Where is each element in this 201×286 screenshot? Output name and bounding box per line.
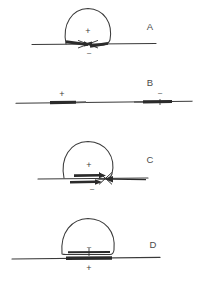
figure-svg: + – A + – B + [0, 0, 201, 286]
panel-c-letter: C [146, 154, 153, 165]
panel-b-letter: B [147, 77, 154, 88]
panel-a-sign-plus: + [85, 26, 90, 36]
figure-background [0, 0, 201, 286]
panel-d-letter: D [149, 239, 156, 250]
panel-c-sign-plus: + [86, 160, 91, 170]
panel-b-sign-plus: + [59, 89, 64, 99]
panel-d-sign-plus: + [86, 263, 91, 273]
panel-a-letter: A [147, 21, 154, 32]
figure-canvas: + – A + – B + [0, 0, 201, 286]
